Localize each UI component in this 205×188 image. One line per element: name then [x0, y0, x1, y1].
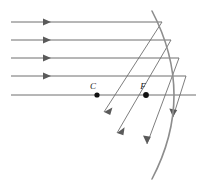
reflected-ray-3-arrowhead — [143, 136, 151, 145]
incoming-ray-3-arrowhead — [43, 55, 51, 62]
incoming-ray-2-arrowhead — [43, 37, 51, 44]
ray-diagram-figure: C F — [0, 0, 205, 188]
incoming-ray-1-arrowhead — [43, 19, 51, 26]
focal-point-dot — [143, 92, 149, 98]
center-of-curvature-label: C — [90, 81, 97, 91]
incoming-ray-4-arrowhead — [43, 73, 51, 80]
reflected-ray-1-arrowhead — [104, 108, 112, 116]
ray-diagram-canvas: C F — [0, 0, 205, 188]
center-of-curvature-dot — [94, 92, 99, 97]
reflected-ray-1 — [104, 22, 162, 112]
focal-point-label: F — [139, 81, 146, 91]
